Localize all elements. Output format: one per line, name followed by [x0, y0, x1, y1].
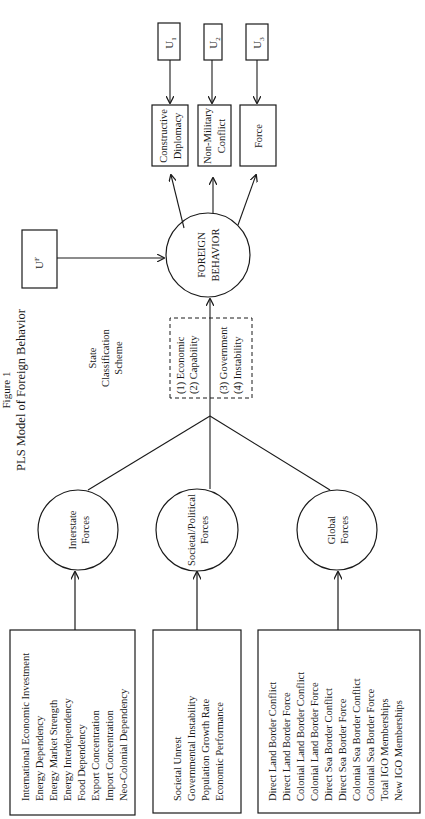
svg-text:Societal Unrest: Societal Unrest [172, 736, 183, 801]
svg-text:Population Growth Rate: Population Growth Rate [200, 699, 211, 801]
error-term-uf: UF [22, 230, 57, 288]
svg-text:Direct Sea Border Conflict: Direct Sea Border Conflict [323, 688, 334, 801]
svg-text:Global: Global [326, 516, 337, 545]
foreign-behavior-node: FOREIGN BEHAVIOR [166, 213, 250, 297]
svg-text:U3: U3 [251, 37, 266, 49]
svg-text:Economic Performance: Economic Performance [214, 702, 225, 801]
behavior-force: Force [240, 105, 276, 166]
svg-text:FOREIGN: FOREIGN [196, 232, 207, 278]
svg-text:Neo-Colonial Dependency: Neo-Colonial Dependency [118, 688, 129, 801]
svg-text:Direct Sea Border Force: Direct Sea Border Force [337, 698, 348, 801]
svg-text:Classification: Classification [100, 328, 111, 386]
svg-text:Import Concentration: Import Concentration [104, 710, 115, 801]
svg-text:Diplomacy: Diplomacy [172, 112, 183, 159]
svg-text:(3) Government: (3) Government [218, 327, 230, 394]
svg-text:Forces: Forces [199, 516, 210, 544]
latent-interstate-forces: Interstate Forces [38, 490, 118, 570]
svg-text:U1: U1 [163, 37, 178, 49]
svg-text:Total IGO Memberships: Total IGO Memberships [379, 699, 390, 802]
svg-text:Colonial Sea Border Conflict: Colonial Sea Border Conflict [351, 678, 362, 801]
svg-text:Governmental Instability: Governmental Instability [186, 695, 197, 801]
input-box-global: Direct Land Border Conflict Direct Land … [258, 630, 420, 813]
svg-text:Colonial Sea Border Force: Colonial Sea Border Force [365, 688, 376, 801]
svg-text:Conflict: Conflict [216, 119, 227, 153]
svg-text:UF: UF [33, 257, 45, 269]
svg-text:Non-Military: Non-Military [202, 107, 213, 164]
error-term-u1: U1 [158, 23, 180, 60]
svg-text:(2) Capability: (2) Capability [188, 335, 200, 394]
svg-text:Forces: Forces [80, 516, 91, 544]
error-term-u3: U3 [246, 24, 268, 60]
latent-global-forces: Global Forces [297, 490, 377, 570]
svg-text:Energy Market Strength: Energy Market Strength [48, 699, 59, 801]
svg-text:Scheme: Scheme [113, 341, 124, 375]
svg-text:Food Dependency: Food Dependency [76, 724, 87, 801]
svg-text:(1) Economic: (1) Economic [175, 336, 187, 394]
link-global [210, 416, 330, 490]
input-box-societal: Societal Unrest Governmental Instability… [153, 630, 241, 813]
state-classification-scheme: State Classification Scheme (1) Economic… [87, 318, 252, 398]
svg-text:Colonial Land Border Force: Colonial Land Border Force [309, 682, 320, 801]
input-box-interstate: International Economic Investment Energy… [10, 630, 135, 815]
error-term-u2: U2 [204, 24, 222, 60]
svg-text:Colonial Land Border Conflict: Colonial Land Border Conflict [295, 672, 306, 801]
svg-text:New IGO Memberships: New IGO Memberships [393, 700, 404, 801]
latent-societal-political-forces: Societal/Political Forces [156, 489, 238, 571]
svg-text:International Economic Investm: International Economic Investment [20, 653, 31, 801]
svg-text:Direct Land Border Conflict: Direct Land Border Conflict [267, 682, 278, 801]
behavior-constructive-diplomacy: Constructive Diplomacy [152, 105, 188, 166]
svg-text:Direct Land Border Force: Direct Land Border Force [281, 692, 292, 801]
svg-text:U2: U2 [207, 37, 222, 49]
svg-text:Forces: Forces [339, 516, 350, 544]
svg-text:Societal/Political: Societal/Political [186, 494, 197, 566]
svg-text:State: State [87, 347, 98, 368]
behavior-non-military-conflict: Non-Military Conflict [198, 105, 231, 166]
figure-label: Figure 1 [0, 372, 12, 409]
svg-text:Energy Interdependency: Energy Interdependency [62, 698, 73, 801]
svg-text:Interstate: Interstate [67, 510, 78, 549]
svg-text:Force: Force [253, 124, 264, 148]
link-interstate [88, 416, 210, 490]
svg-text:(4) Instability: (4) Instability [232, 336, 244, 394]
svg-text:Export Concentration: Export Concentration [90, 710, 101, 801]
arrow-to-force [238, 175, 256, 225]
svg-text:BEHAVIOR: BEHAVIOR [210, 229, 221, 282]
svg-text:Energy Dependency: Energy Dependency [34, 715, 45, 801]
arrow-to-diplomacy [171, 175, 184, 228]
figure-caption: PLS Model of Foreign Behavior [14, 308, 28, 471]
svg-text:Constructive: Constructive [158, 109, 169, 163]
diagram-canvas: Figure 1 PLS Model of Foreign Behavior I… [0, 0, 425, 819]
